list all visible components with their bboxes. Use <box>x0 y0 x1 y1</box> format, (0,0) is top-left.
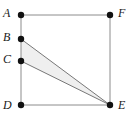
vertex-dot-f <box>107 12 113 18</box>
vertex-dot-c <box>18 58 24 64</box>
vertex-label-d: D <box>3 99 12 111</box>
vertex-label-b: B <box>3 31 10 43</box>
figure-canvas <box>0 0 131 124</box>
segment-ce <box>21 61 110 105</box>
vertex-dot-b <box>18 36 24 42</box>
vertex-label-c: C <box>3 53 11 65</box>
vertex-label-a: A <box>3 7 10 19</box>
vertex-label-f: F <box>118 7 125 19</box>
vertex-dot-a <box>18 12 24 18</box>
vertex-label-e: E <box>118 99 125 111</box>
vertex-dot-e <box>107 102 113 108</box>
geometry-figure: A B C D E F <box>0 0 131 124</box>
vertex-dot-d <box>18 102 24 108</box>
segment-be <box>21 39 110 105</box>
